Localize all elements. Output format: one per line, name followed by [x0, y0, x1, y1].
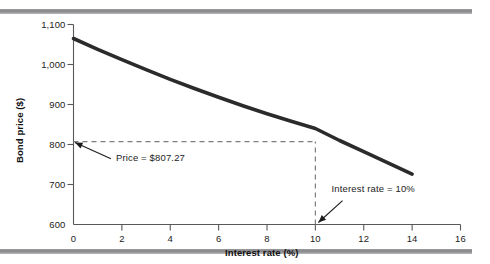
x-tick-label: 0 — [54, 233, 94, 244]
y-tick-label: 800 — [26, 139, 66, 150]
x-tick-label: 14 — [392, 233, 432, 244]
y-tick-label: 700 — [26, 179, 66, 190]
x-axis-title: Interest rate (%) — [225, 247, 299, 258]
x-tick-label: 4 — [150, 233, 190, 244]
y-tick-label: 1,000 — [26, 59, 66, 70]
x-tick-label: 16 — [441, 233, 481, 244]
y-axis-title: Bond price ($) — [14, 97, 25, 162]
y-tick-label: 600 — [26, 219, 66, 230]
y-tick-label: 900 — [26, 99, 66, 110]
x-tick-label: 6 — [199, 233, 239, 244]
x-tick-label: 12 — [344, 233, 384, 244]
x-tick-label: 8 — [247, 233, 287, 244]
interest-rate-annotation-label: Interest rate = 10% — [332, 183, 415, 194]
x-tick-label: 2 — [102, 233, 142, 244]
x-axis-ticks — [122, 225, 461, 231]
y-tick-label: 1,100 — [26, 19, 66, 30]
price-annotation-label: Price = $807.27 — [116, 152, 185, 163]
plot-canvas — [0, 0, 490, 264]
y-axis-ticks — [68, 25, 74, 185]
guide-lines — [74, 142, 316, 225]
x-tick-label: 10 — [295, 233, 335, 244]
bond-price-figure: 6007008009001,0001,100 0246810121416 Bon… — [0, 0, 490, 264]
